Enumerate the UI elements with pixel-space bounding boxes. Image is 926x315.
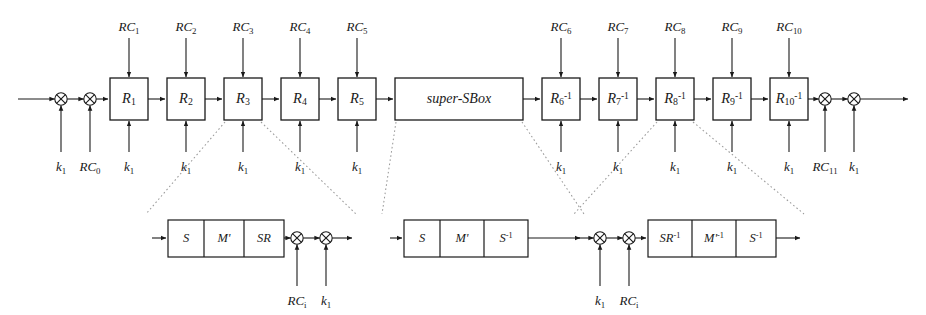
bottom-label-block-r5: k1 <box>352 160 362 175</box>
label-block-supersbox: super-SBox <box>427 92 491 106</box>
top-label-block-r6i: RC6 <box>550 20 571 35</box>
label-expansion-round-inverse-lead-0: k1 <box>595 294 605 309</box>
bottom-label-block-r3: k1 <box>238 160 248 175</box>
expansion-round-forward-cell-0: S <box>183 232 189 245</box>
label-block-r1: R1 <box>122 91 136 107</box>
label-xor-out-1: RC11 <box>812 160 837 175</box>
label-block-r3: R3 <box>236 91 250 107</box>
top-label-block-r7i: RC7 <box>607 20 628 35</box>
expansion-round-forward-cell-1: M' <box>217 232 230 245</box>
label-block-r7i: R7-1 <box>607 91 629 108</box>
top-label-block-r10i: RC10 <box>776 20 801 35</box>
top-label-block-r3: RC3 <box>232 20 253 35</box>
label-block-r6i: R6-1 <box>550 91 572 108</box>
label-xor-in-1: k1 <box>56 160 66 175</box>
top-label-block-r8i: RC8 <box>664 20 685 35</box>
bottom-label-block-r8i: k1 <box>670 160 680 175</box>
expansion-supersbox-dotted-right <box>522 122 584 214</box>
bottom-label-block-r10i: k1 <box>784 160 794 175</box>
diagram-canvas: k1RC0R1RC1k1R2RC2k1R3RC3k1R4RC4k1R5RC5k1… <box>0 0 926 315</box>
expansion-round-inverse-cell-0: SR-1 <box>660 232 681 245</box>
bottom-label-block-r1: k1 <box>124 160 134 175</box>
bottom-label-block-r7i: k1 <box>613 160 623 175</box>
top-label-block-r1: RC1 <box>118 20 139 35</box>
expansion-round-inverse-cell-1: M'-1 <box>704 232 724 245</box>
label-block-r8i: R8-1 <box>664 91 686 108</box>
top-label-block-r9i: RC9 <box>721 20 742 35</box>
bottom-label-block-r4: k1 <box>295 160 305 175</box>
label-xor-out-2: k1 <box>849 160 859 175</box>
expansion-round-forward-dotted-right <box>261 122 356 214</box>
label-block-r9i: R9-1 <box>721 91 743 108</box>
label-expansion-round-inverse-lead-1: RCi <box>619 294 638 309</box>
label-block-r2: R2 <box>179 91 193 107</box>
bottom-label-block-r9i: k1 <box>727 160 737 175</box>
bottom-label-block-r6i: k1 <box>556 160 566 175</box>
expansion-round-forward-cell-2: SR <box>257 232 271 245</box>
top-label-block-r4: RC4 <box>289 20 310 35</box>
label-block-r10i: R10-1 <box>776 91 803 108</box>
top-label-block-r5: RC5 <box>346 20 367 35</box>
expansion-round-inverse-cell-2: S-1 <box>749 232 762 245</box>
label-expansion-round-forward-trail-0: RCi <box>287 294 306 309</box>
label-block-r4: R4 <box>293 91 307 107</box>
bottom-label-block-r2: k1 <box>181 160 191 175</box>
expansion-supersbox-cell-0: S <box>419 232 425 245</box>
label-xor-in-2: RC0 <box>79 160 100 175</box>
expansion-supersbox-cell-2: S-1 <box>499 232 512 245</box>
expansion-supersbox-dotted-left <box>382 122 396 214</box>
label-block-r5: R5 <box>350 91 364 107</box>
top-label-block-r2: RC2 <box>175 20 196 35</box>
expansion-supersbox-cell-1: M' <box>455 232 468 245</box>
diagram-vector-layer <box>0 0 926 315</box>
label-expansion-round-forward-trail-1: k1 <box>321 294 331 309</box>
